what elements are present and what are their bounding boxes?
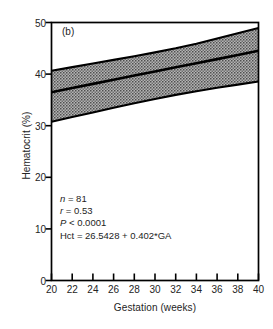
y-axis-ticks [46,23,52,281]
x-tick-label-group: 20 22 24 26 28 30 32 34 36 38 40 [0,284,272,300]
statistics-annotation: n = 81 r = 0.53 P < 0.0001 Hct = 26.5428… [60,193,171,242]
stat-line-p: P < 0.0001 [60,217,171,229]
figure-panel-b: (b) 50 40 30 20 10 0 20 22 24 26 28 30 3… [0,0,272,329]
stat-line-equation: Hct = 26.5428 + 0.402*GA [60,230,171,242]
x-axis-title: Gestation (weeks) [51,302,259,313]
stat-value-r: = 0.53 [63,205,92,216]
panel-label: (b) [62,26,74,37]
stat-line-r: r = 0.53 [60,205,171,217]
stat-value-p: < 0.0001 [66,217,106,228]
y-tick-label: 50 [20,17,46,28]
y-axis-title: Hematocrit (%) [21,76,32,216]
x-tick-label: 40 [244,284,273,295]
y-tick-label: 10 [20,223,46,234]
stat-line-n: n = 81 [60,193,171,205]
stat-value-n: = 81 [65,193,86,204]
